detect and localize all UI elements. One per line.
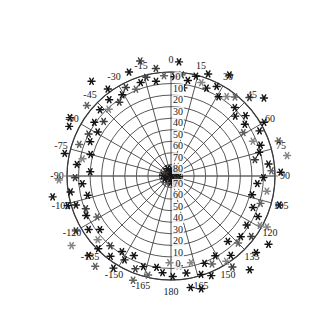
angular-tick-label: -30 bbox=[107, 72, 120, 82]
angular-tick-label: 120 bbox=[263, 228, 278, 238]
angular-tick-label: -90 bbox=[50, 171, 63, 181]
radial-tick-label: 50 bbox=[172, 130, 184, 140]
angular-tick-label: 60 bbox=[265, 114, 275, 124]
radial-tick-label: 50 bbox=[172, 202, 184, 212]
radial-tick-label: 10 bbox=[172, 248, 184, 258]
angular-tick-label: -165 bbox=[132, 281, 150, 291]
angular-tick-label: 75 bbox=[276, 141, 286, 151]
radial-tick-label: 0 bbox=[175, 72, 182, 82]
radial-tick-label: 20 bbox=[172, 236, 184, 246]
radial-tick-label: 0 bbox=[175, 259, 182, 269]
radial-tick-label: 30 bbox=[172, 225, 184, 235]
skyplot-figure: 0153045607590105120135150165180-165-150-… bbox=[0, 0, 320, 335]
radial-tick-label: 10 bbox=[172, 84, 184, 94]
radial-tick-label: 40 bbox=[172, 213, 184, 223]
radial-tick-label: 60 bbox=[172, 141, 184, 151]
angular-tick-label: -105 bbox=[52, 201, 70, 211]
angular-tick-label: 45 bbox=[247, 90, 257, 100]
angular-tick-label: 150 bbox=[221, 270, 236, 280]
angular-tick-label: -15 bbox=[134, 61, 147, 71]
angular-tick-label: -75 bbox=[54, 141, 67, 151]
angular-tick-label: 90 bbox=[280, 171, 290, 181]
radial-tick-label: 20 bbox=[172, 95, 184, 105]
angular-tick-label: 135 bbox=[245, 252, 260, 262]
angular-tick-label: -135 bbox=[81, 252, 99, 262]
radial-tick-label: 80 bbox=[172, 164, 184, 174]
angular-tick-label: 15 bbox=[196, 61, 206, 71]
angular-tick-label: 165 bbox=[194, 281, 209, 291]
angular-tick-label: -120 bbox=[63, 228, 81, 238]
radial-tick-label: 70 bbox=[172, 153, 184, 163]
radial-tick-label: 30 bbox=[172, 107, 184, 117]
angular-tick-label: -150 bbox=[105, 270, 123, 280]
angular-tick-label: -60 bbox=[65, 114, 78, 124]
radial-tick-label: 40 bbox=[172, 118, 184, 128]
angular-tick-label: 30 bbox=[223, 72, 233, 82]
angular-tick-label: 105 bbox=[274, 201, 289, 211]
radial-tick-label: 70 bbox=[172, 179, 184, 189]
angular-tick-label: 180 bbox=[164, 287, 179, 297]
angular-tick-label: -45 bbox=[83, 90, 96, 100]
polar-plot-canvas bbox=[0, 0, 320, 335]
angular-tick-label: 0 bbox=[169, 55, 174, 65]
radial-tick-label: 60 bbox=[172, 190, 184, 200]
